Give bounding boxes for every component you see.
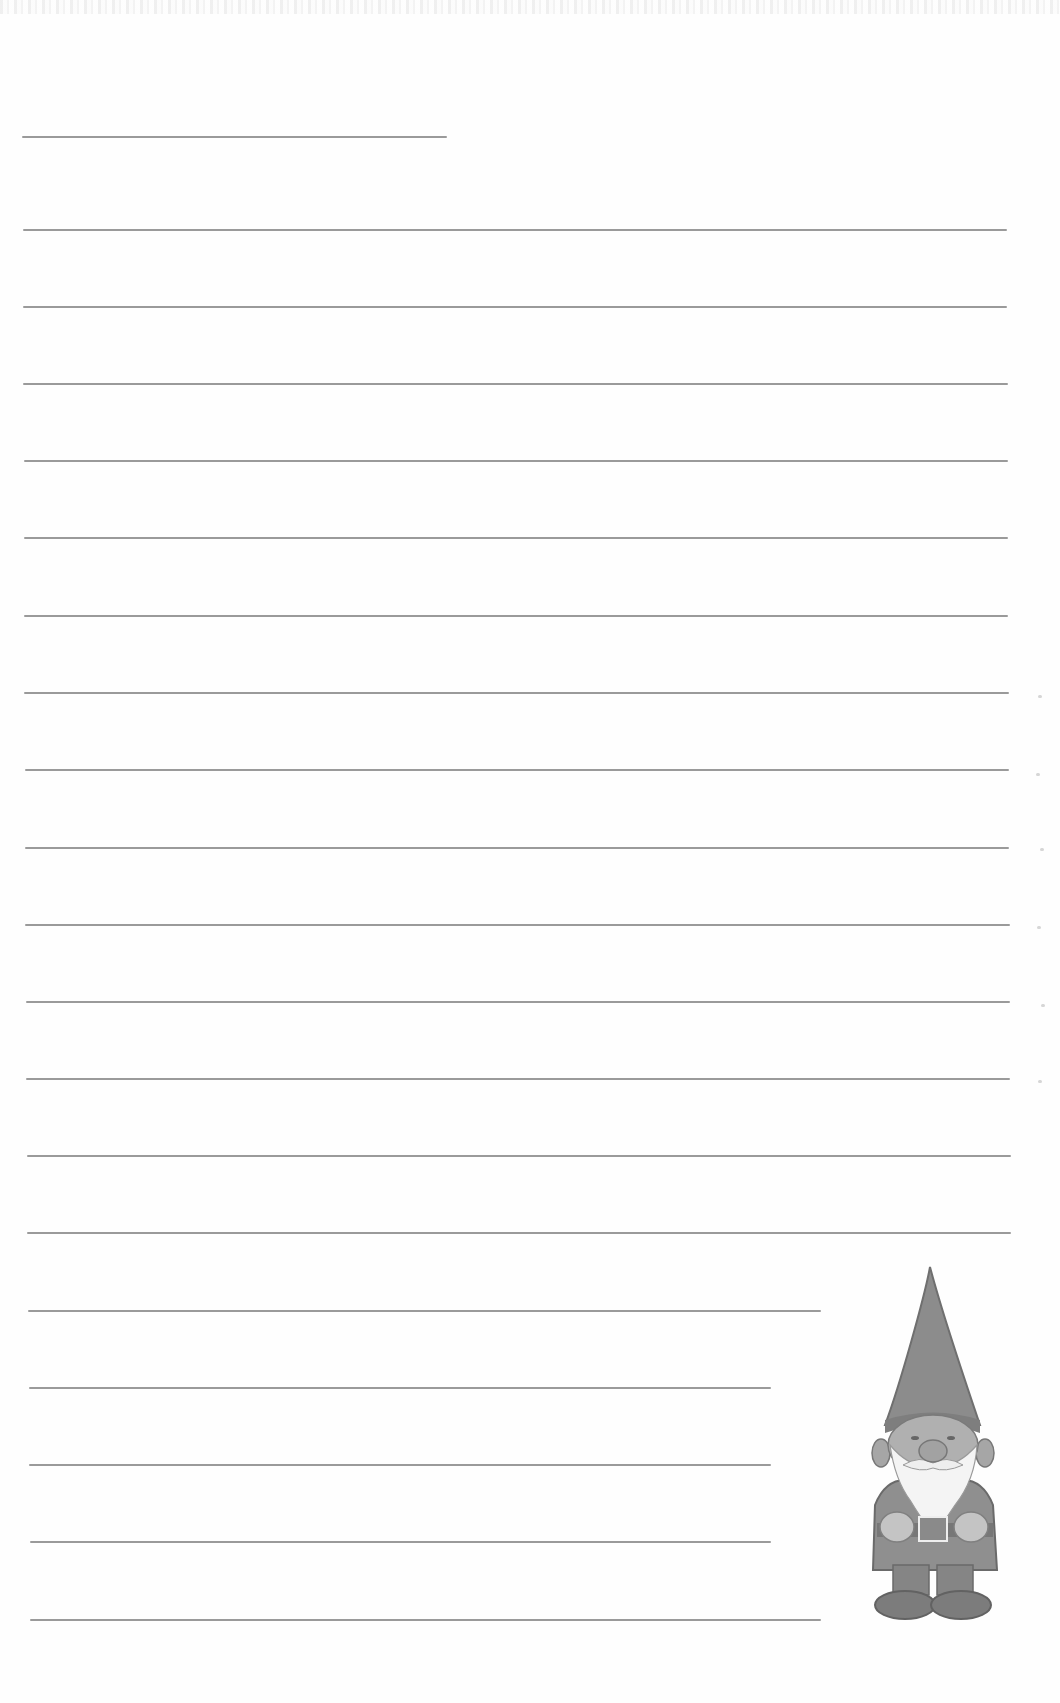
writing-line bbox=[25, 847, 1009, 849]
writing-line bbox=[25, 924, 1010, 926]
writing-line bbox=[24, 537, 1008, 539]
writing-line bbox=[23, 229, 1007, 231]
writing-line bbox=[27, 1155, 1011, 1157]
writing-line bbox=[26, 1078, 1010, 1080]
writing-line bbox=[30, 1619, 821, 1621]
writing-line bbox=[30, 1541, 771, 1543]
title-line bbox=[22, 136, 447, 138]
gnome-illustration-icon bbox=[845, 1265, 1015, 1625]
writing-line bbox=[26, 1001, 1010, 1003]
writing-line bbox=[24, 615, 1008, 617]
writing-line bbox=[24, 460, 1008, 462]
writing-line bbox=[23, 383, 1008, 385]
writing-line bbox=[29, 1387, 771, 1389]
scan-edge-noise bbox=[0, 0, 1060, 14]
writing-line bbox=[23, 306, 1007, 308]
writing-line bbox=[29, 1464, 771, 1466]
writing-line bbox=[27, 1232, 1011, 1234]
writing-line bbox=[24, 692, 1009, 694]
writing-line bbox=[25, 769, 1009, 771]
writing-line bbox=[28, 1310, 821, 1312]
